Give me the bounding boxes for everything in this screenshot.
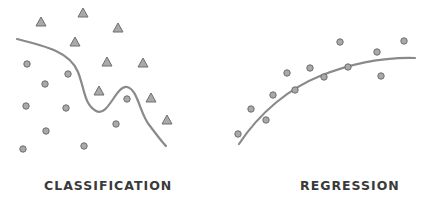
circle-marker <box>20 146 26 152</box>
circle-marker <box>24 61 30 67</box>
circle-marker <box>113 121 119 127</box>
circle-marker <box>42 81 48 87</box>
circle-marker <box>284 70 290 76</box>
classification-plot <box>17 8 172 152</box>
regression-plot <box>235 38 415 144</box>
triangle-marker <box>102 57 112 66</box>
decision-boundary-curve <box>17 39 166 146</box>
circle-marker <box>124 96 130 102</box>
circle-marker <box>337 39 343 45</box>
circle-marker <box>270 92 276 98</box>
circle-marker <box>378 73 384 79</box>
circle-marker <box>321 74 327 80</box>
triangle-marker <box>78 8 88 17</box>
triangle-marker <box>162 115 172 124</box>
circle-marker <box>345 64 351 70</box>
triangle-marker <box>146 93 156 102</box>
circle-marker <box>43 128 49 134</box>
triangle-marker <box>138 58 148 67</box>
circle-marker <box>23 103 29 109</box>
diagram-canvas <box>0 0 425 207</box>
circle-marker <box>292 87 298 93</box>
triangle-marker <box>36 17 46 26</box>
circle-marker <box>81 143 87 149</box>
triangle-marker <box>94 86 104 95</box>
circle-marker <box>248 106 254 112</box>
circle-marker <box>307 65 313 71</box>
circle-marker <box>235 131 241 137</box>
circle-marker <box>263 117 269 123</box>
triangle-marker <box>113 23 123 32</box>
circle-marker <box>65 71 71 77</box>
triangle-marker <box>70 37 80 46</box>
regression-fit-curve <box>239 58 415 144</box>
circle-marker <box>401 38 407 44</box>
classification-label: CLASSIFICATION <box>44 178 172 193</box>
circle-marker <box>374 49 380 55</box>
circle-marker <box>63 105 69 111</box>
regression-label: REGRESSION <box>300 178 400 193</box>
